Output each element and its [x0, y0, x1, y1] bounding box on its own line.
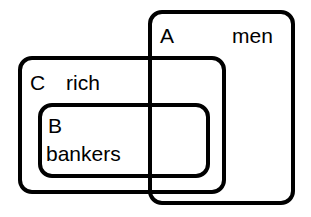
euler-diagram-canvas: AmenCrichBbankers	[0, 0, 311, 217]
euler-diagram-svg: AmenCrichBbankers	[0, 0, 311, 217]
set-letter-a: A	[160, 24, 174, 47]
set-rect-b	[40, 105, 208, 176]
set-name-a: men	[232, 24, 273, 47]
set-name-b: bankers	[46, 142, 121, 165]
set-letter-b: B	[48, 114, 62, 137]
set-name-c: rich	[66, 71, 100, 94]
set-letter-c: C	[30, 71, 45, 94]
